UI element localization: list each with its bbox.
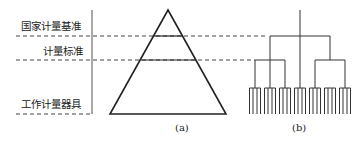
leaf-comb-6	[325, 88, 336, 114]
leaf-comb-4	[295, 88, 306, 114]
leaf-comb-2	[265, 88, 276, 114]
leaf-comb-5	[310, 88, 321, 114]
label-working-instrument: 工作计量器具	[21, 96, 81, 111]
label-national-primary-standard: 国家计量基准	[21, 18, 81, 33]
metrology-hierarchy-diagram: 国家计量基准 计量标准 工作计量器具 (a) (b)	[0, 0, 364, 143]
label-measurement-standard: 计量标准	[43, 43, 83, 58]
tree-b	[250, 10, 351, 114]
caption-b: (b)	[292, 122, 306, 133]
pyramid-a	[110, 10, 226, 114]
leaf-comb-1	[250, 88, 261, 114]
caption-a: (a)	[175, 122, 189, 133]
leaf-comb-3	[280, 88, 291, 114]
leaf-comb-7	[340, 88, 351, 114]
